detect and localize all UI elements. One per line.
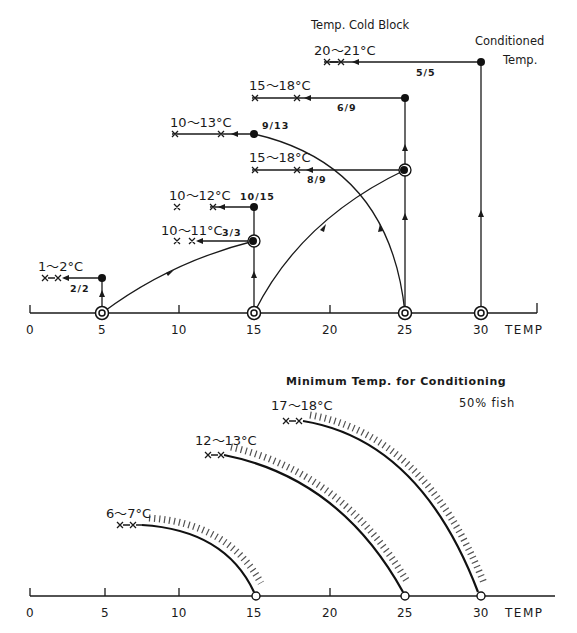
cold-block-label-4: 10～13°C xyxy=(170,115,232,130)
bottom-tick-10: 10 xyxy=(171,606,186,620)
top-tick-30: 30 xyxy=(473,323,488,337)
bottom-tick-15: 15 xyxy=(246,606,261,620)
ratio-label-5: 8/9 xyxy=(307,174,327,185)
top-title: Temp. Cold Block xyxy=(310,18,410,32)
ratio-label-2: 3/3 xyxy=(222,227,242,238)
cold-block-label-1: 1～2°C xyxy=(38,259,83,274)
curve-15 xyxy=(142,525,254,592)
cold-block-label-7: 20～21°C xyxy=(314,43,376,58)
bottom-title: Minimum Temp. for Conditioning xyxy=(286,375,506,388)
ratio-label-6: 6/9 xyxy=(337,102,357,113)
curve-label-3: 17～18°C xyxy=(271,398,333,413)
bottom-axis-label: TEMP xyxy=(504,606,544,620)
bottom-diagram: Minimum Temp. for Conditioning 50% fish … xyxy=(26,375,555,620)
cold-block-label-6: 15～18°C xyxy=(249,78,311,93)
top-tick-20: 20 xyxy=(322,323,337,337)
cold-block-label-2: 10～11°C xyxy=(161,223,223,238)
figure: Temp. Cold Block Conditioned Temp. 0 5 1… xyxy=(0,0,577,633)
curve-label-2: 12～13°C xyxy=(195,433,257,448)
top-tick-5: 5 xyxy=(98,323,106,337)
curve-30 xyxy=(303,421,478,592)
top-axis-label: TEMP xyxy=(504,323,544,337)
bottom-x-axis: 0 5 10 15 20 25 30 TEMP xyxy=(26,588,555,620)
cold-block-label-3: 10～12°C xyxy=(169,188,231,203)
ratio-label-3: 10/15 xyxy=(240,191,275,202)
top-tick-10: 10 xyxy=(171,323,186,337)
bottom-tick-25: 25 xyxy=(397,606,412,620)
bottom-subtitle: 50% fish xyxy=(459,396,515,410)
curve-label-1: 6～7°C xyxy=(106,506,151,521)
cold-block-label-5: 15～18°C xyxy=(249,150,311,165)
bottom-tick-5: 5 xyxy=(101,606,109,620)
bottom-tick-0: 0 xyxy=(26,606,34,620)
bottom-tick-20: 20 xyxy=(322,606,337,620)
top-tick-0: 0 xyxy=(26,323,34,337)
top-tick-25: 25 xyxy=(397,323,412,337)
temp-label: Temp. xyxy=(502,53,537,67)
ratio-label-4: 9/13 xyxy=(262,120,289,131)
conditioned-label: Conditioned xyxy=(475,34,544,48)
ratio-label-1: 2/2 xyxy=(70,283,90,294)
top-diagram: Temp. Cold Block Conditioned Temp. 0 5 1… xyxy=(26,18,544,337)
bottom-tick-30: 30 xyxy=(473,606,488,620)
ratio-label-7: 5/5 xyxy=(416,67,436,78)
top-tick-15: 15 xyxy=(246,323,261,337)
